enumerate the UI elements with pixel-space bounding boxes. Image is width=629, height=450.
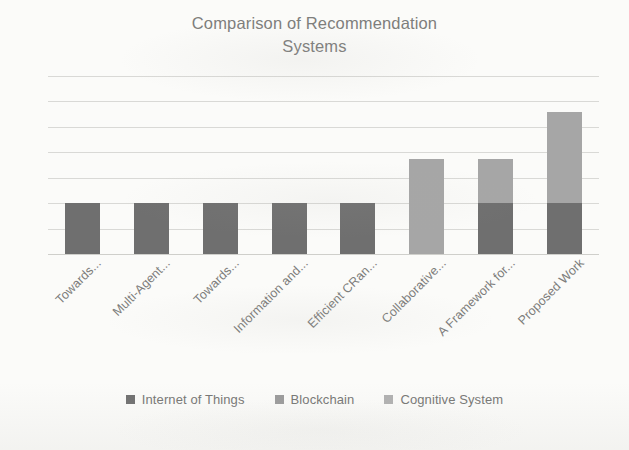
chart-legend: Internet of ThingsBlockchainCognitive Sy… (0, 392, 629, 407)
x-axis-line (48, 254, 599, 255)
bar-segment (409, 159, 444, 254)
bar-column[interactable] (340, 203, 375, 254)
x-axis-label: Efficient CRan... (305, 256, 380, 331)
legend-swatch-icon (126, 395, 135, 404)
legend-swatch-icon (275, 395, 284, 404)
bar-segment (65, 203, 100, 254)
legend-item[interactable]: Cognitive System (384, 392, 503, 407)
x-axis-label: Collaborative... (379, 256, 449, 326)
x-axis-labels: Towards...Multi-Agent...Towards...Inform… (48, 256, 599, 361)
legend-label: Internet of Things (142, 392, 245, 407)
chart-container: Comparison of Recommendation Systems Tow… (0, 0, 629, 450)
chart-title-line-1: Comparison of Recommendation (0, 12, 629, 35)
bar-segment (272, 203, 307, 254)
legend-label: Cognitive System (400, 392, 503, 407)
bar-column[interactable] (409, 159, 444, 254)
bar-segment (547, 203, 582, 254)
bar-column[interactable] (65, 203, 100, 254)
plot-area (48, 76, 599, 254)
bar-segment (340, 203, 375, 254)
x-axis-label: Multi-Agent... (110, 256, 173, 319)
legend-swatch-icon (384, 395, 393, 404)
chart-title-line-2: Systems (0, 35, 629, 58)
chart-title: Comparison of Recommendation Systems (0, 12, 629, 58)
bar-column[interactable] (134, 203, 169, 254)
x-axis-label: Towards... (53, 256, 104, 307)
bar-column[interactable] (547, 112, 582, 254)
x-axis-label: Proposed Work (515, 256, 587, 328)
x-axis-label: Towards... (191, 256, 242, 307)
bar-column[interactable] (203, 203, 238, 254)
bar-segment (478, 203, 513, 254)
legend-item[interactable]: Internet of Things (126, 392, 245, 407)
legend-item[interactable]: Blockchain (275, 392, 355, 407)
bar-segment (134, 203, 169, 254)
bar-segment (547, 112, 582, 204)
bars-layer (48, 76, 599, 254)
bar-column[interactable] (272, 203, 307, 254)
bar-segment (203, 203, 238, 254)
x-axis-label: Information and... (231, 256, 311, 336)
bar-column[interactable] (478, 159, 513, 254)
legend-label: Blockchain (291, 392, 355, 407)
x-axis-label: A Framework for... (435, 256, 518, 339)
bar-segment (478, 159, 513, 204)
